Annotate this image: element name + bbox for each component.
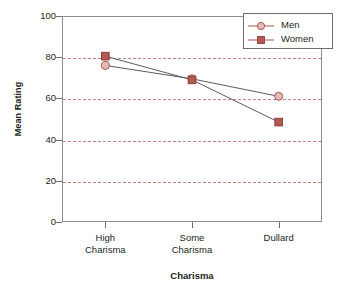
series-line-women <box>105 56 278 122</box>
y-tick-mark-40 <box>55 140 62 141</box>
x-tick-label-2: Dullard <box>236 232 322 244</box>
data-point-women-2 <box>275 118 283 126</box>
legend-label-women: Women <box>275 33 314 44</box>
legend-swatch-square-icon <box>247 32 275 44</box>
x-tick-mark-1 <box>192 222 193 228</box>
x-tick-label-line2: Charisma <box>62 244 148 256</box>
legend-swatch-circle-icon <box>247 18 275 30</box>
y-tick-mark-80 <box>55 57 62 58</box>
y-tick-mark-100 <box>55 16 62 17</box>
data-point-men-2 <box>275 92 283 100</box>
x-tick-label-line1: Some <box>149 232 235 244</box>
y-tick-label-20: 20 <box>28 176 56 186</box>
x-tick-label-0: HighCharisma <box>62 232 148 256</box>
x-tick-label-line2: Charisma <box>149 244 235 256</box>
x-tick-label-1: SomeCharisma <box>149 232 235 256</box>
y-tick-mark-60 <box>55 98 62 99</box>
data-point-men-0 <box>101 61 109 69</box>
y-axis-tick-labels: 020406080100 <box>26 0 56 303</box>
y-tick-label-60: 60 <box>28 93 56 103</box>
y-tick-mark-20 <box>55 181 62 182</box>
y-axis-title: Mean Rating <box>13 64 23 154</box>
chart-legend: Men Women <box>243 13 333 49</box>
y-tick-mark-0 <box>55 222 62 223</box>
x-tick-mark-2 <box>279 222 280 228</box>
y-tick-label-40: 40 <box>28 135 56 145</box>
y-tick-label-0: 0 <box>28 217 56 227</box>
x-tick-label-line1: High <box>62 232 148 244</box>
data-point-women-1 <box>188 76 196 84</box>
y-tick-label-100: 100 <box>28 11 56 21</box>
x-tick-label-line1: Dullard <box>236 232 322 244</box>
y-tick-label-80: 80 <box>28 52 56 62</box>
chart-figure: Mean Rating 020406080100 HighCharismaSom… <box>0 0 346 303</box>
legend-item-women: Women <box>247 31 328 45</box>
data-point-women-0 <box>102 52 110 60</box>
x-axis-title: Charisma <box>62 270 322 281</box>
x-tick-mark-0 <box>105 222 106 228</box>
legend-item-men: Men <box>247 17 328 31</box>
legend-label-men: Men <box>275 19 299 30</box>
